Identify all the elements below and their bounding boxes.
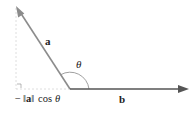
label-projection: −‖a‖cosθ (15, 94, 60, 105)
label-a: a (45, 36, 51, 47)
projection-theta: θ (55, 93, 60, 104)
projection-cos: cos (38, 93, 52, 104)
projection-minus: − (15, 93, 21, 104)
right-angle-marker (17, 84, 21, 88)
projection-norm-close: ‖ (31, 93, 34, 104)
vector-b-arrowhead (178, 85, 189, 93)
label-b: b (119, 94, 125, 105)
label-theta: θ (76, 59, 81, 70)
vector-a (20, 12, 70, 89)
